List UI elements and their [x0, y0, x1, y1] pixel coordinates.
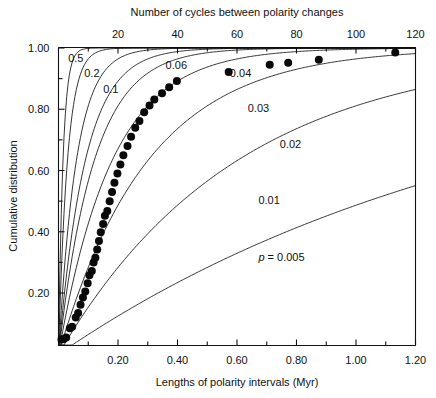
data-point: [158, 89, 166, 97]
top-axis-title: Number of cycles between polarity change…: [131, 6, 344, 18]
model-curve-p-0.5: [59, 186, 416, 345]
data-point: [91, 254, 99, 262]
data-point: [95, 237, 103, 245]
data-point: [106, 197, 114, 205]
curve-label-0.005: p = 0.005: [257, 251, 304, 263]
top-tick-label: 60: [231, 28, 243, 40]
data-point: [135, 117, 143, 125]
data-point: [140, 108, 148, 116]
data-point: [81, 287, 89, 295]
model-curve-p-0.2: [59, 89, 416, 345]
data-point: [97, 228, 105, 236]
curve-label-0.5: 0.5: [68, 52, 83, 64]
data-point: [150, 95, 158, 103]
cumulative-distribution-chart: Number of cycles between polarity change…: [0, 0, 436, 398]
p-value: = 0.005: [265, 251, 305, 263]
p-symbol: p: [257, 251, 264, 263]
y-tick-label: 0.40: [28, 226, 49, 238]
curve-label-0.03: 0.03: [248, 102, 269, 114]
y-tick-label: 0.80: [28, 103, 49, 115]
data-point: [74, 309, 82, 317]
curve-label-0.2: 0.2: [84, 67, 99, 79]
x-tick-label: 0.20: [107, 354, 128, 366]
y-tick-label: 1.00: [28, 42, 49, 54]
data-point: [127, 133, 135, 141]
x-tick-label: 1.00: [345, 354, 366, 366]
data-point: [116, 160, 124, 168]
data-point: [119, 151, 127, 159]
top-tick-label: 40: [171, 28, 183, 40]
x-tick-label: 0.60: [226, 354, 247, 366]
data-point: [93, 246, 101, 254]
data-point: [110, 179, 118, 187]
data-point: [77, 301, 85, 309]
data-point: [173, 77, 181, 85]
data-point: [108, 188, 116, 196]
data-point: [103, 207, 111, 215]
data-point: [131, 124, 139, 132]
x-tick-label: 0.80: [286, 354, 307, 366]
top-tick-label: 120: [406, 28, 424, 40]
figure-container: Number of cycles between polarity change…: [0, 0, 436, 398]
data-point: [165, 83, 173, 91]
x-tick-label: 0.40: [167, 354, 188, 366]
y-tick-label: 0.60: [28, 165, 49, 177]
curve-label-0.04: 0.04: [230, 67, 251, 79]
data-point: [284, 59, 292, 67]
data-point: [62, 333, 70, 341]
data-point: [88, 267, 96, 275]
curve-label-0.1: 0.1: [103, 83, 118, 95]
data-point: [68, 323, 76, 331]
data-point: [391, 49, 399, 57]
data-point: [113, 170, 121, 178]
data-point: [225, 68, 233, 76]
top-tick-label: 100: [347, 28, 365, 40]
curve-label-0.06: 0.06: [166, 59, 187, 71]
data-point: [124, 142, 132, 150]
data-point: [99, 220, 107, 228]
x-tick-label: 1.20: [405, 354, 426, 366]
data-point: [266, 61, 274, 69]
data-point: [315, 56, 323, 64]
y-tick-label: 0.20: [28, 287, 49, 299]
x-axis-title: Lengths of polarity intervals (Myr): [156, 376, 319, 388]
curve-label-0.01: 0.01: [258, 194, 279, 206]
curve-label-0.02: 0.02: [280, 138, 301, 150]
data-point: [84, 279, 92, 287]
top-tick-label: 20: [112, 28, 124, 40]
y-axis-title: Cumulative distribution: [7, 140, 19, 251]
top-tick-label: 80: [290, 28, 302, 40]
